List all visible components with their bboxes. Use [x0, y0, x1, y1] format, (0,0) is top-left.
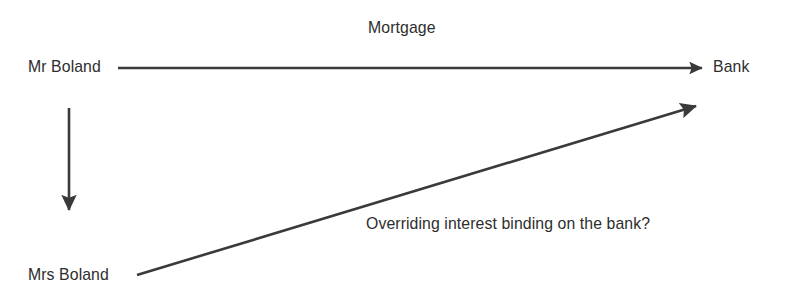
node-label-bank: Bank: [713, 58, 749, 75]
edge-label-overriding-interest: Overriding interest binding on the bank?: [366, 215, 650, 232]
overriding-interest-arrow: [137, 106, 696, 275]
edge-label-mortgage: Mortgage: [368, 19, 436, 36]
diagram-graphics: [0, 0, 788, 305]
diagram-canvas: Mr Boland Bank Mrs Boland Mortgage Overr…: [0, 0, 788, 305]
node-label-mr-boland: Mr Boland: [28, 58, 101, 75]
node-label-mrs-boland: Mrs Boland: [28, 266, 109, 283]
